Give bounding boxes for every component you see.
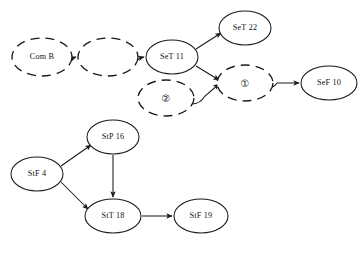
node-label-stt-18: StT 18	[101, 211, 124, 220]
directed-graph: Com BSeT 11SeT 22①②SeF 10StP 16StF 4StT …	[0, 0, 364, 253]
node-circle-2[interactable]: ②	[138, 80, 194, 116]
edge-set-11-to-circle-1	[196, 66, 219, 80]
node-label-stp-16: StP 16	[102, 132, 125, 141]
node-shape-blank-1	[78, 38, 138, 76]
node-label-sef-10: SeF 10	[317, 78, 341, 87]
node-label-circle-1: ①	[241, 78, 250, 89]
node-set-22[interactable]: SeT 22	[219, 11, 271, 45]
edge-stf-4-to-stt-18	[61, 182, 88, 209]
node-stt-18[interactable]: StT 18	[85, 199, 141, 233]
node-stf-4[interactable]: StF 4	[11, 157, 63, 191]
node-label-circle-2: ②	[162, 93, 171, 104]
node-circle-1[interactable]: ①	[217, 65, 273, 101]
node-stp-16[interactable]: StP 16	[87, 120, 139, 154]
node-label-stf-4: StF 4	[28, 169, 47, 178]
node-label-stf-19: StF 19	[190, 211, 213, 220]
nodes-layer: Com BSeT 11SeT 22①②SeF 10StP 16StF 4StT …	[11, 11, 357, 233]
node-label-set-22: SeT 22	[233, 23, 257, 32]
diagram-canvas: Com BSeT 11SeT 22①②SeF 10StP 16StF 4StT …	[0, 0, 364, 253]
node-stf-19[interactable]: StF 19	[174, 199, 228, 233]
node-label-set-11: SeT 11	[160, 52, 184, 61]
node-label-com-b: Com B	[30, 52, 55, 61]
edge-circle-2-to-circle-1	[192, 84, 219, 104]
edge-stf-4-to-stp-16	[61, 145, 91, 166]
node-sef-10[interactable]: SeF 10	[301, 66, 357, 100]
edge-set-11-to-set-22	[196, 33, 221, 49]
node-set-11[interactable]: SeT 11	[146, 40, 198, 74]
node-blank-1[interactable]	[78, 38, 138, 76]
node-com-b[interactable]: Com B	[12, 38, 72, 76]
